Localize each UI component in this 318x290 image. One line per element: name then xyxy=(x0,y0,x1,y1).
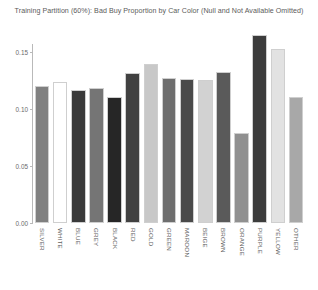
x-axis-label: GOLD xyxy=(147,228,154,246)
x-axis-label-slot: GOLD xyxy=(142,226,160,286)
x-axis-label: OTHER xyxy=(292,228,299,251)
y-axis-tick-label: 0.00 xyxy=(16,219,28,228)
x-axis-label-slot: PURPLE xyxy=(251,226,269,286)
bar[interactable] xyxy=(234,133,249,223)
x-axis-label-slot: BLUE xyxy=(69,226,87,286)
x-axis-label: MAROON xyxy=(184,228,191,257)
bar[interactable] xyxy=(89,88,104,223)
bar-slot xyxy=(89,30,104,223)
bar-slot xyxy=(35,30,50,223)
bar[interactable] xyxy=(180,79,195,223)
y-axis-tick-label: 0.15 xyxy=(16,48,28,57)
x-axis-label: BLUE xyxy=(75,228,82,245)
x-axis-label-slot: BLACK xyxy=(106,226,124,286)
x-axis-label-slot: OTHER xyxy=(287,226,305,286)
x-axis-label-slot: YELLOW xyxy=(269,226,287,286)
bar[interactable] xyxy=(271,49,286,223)
bar[interactable] xyxy=(162,78,177,223)
y-axis-tick-label: 0.05 xyxy=(16,162,28,171)
bar[interactable] xyxy=(53,82,68,223)
bar-slot xyxy=(144,30,159,223)
bar-chart: Training Partition (60%): Bad Buy Propor… xyxy=(0,0,318,290)
bar[interactable] xyxy=(198,80,213,223)
bar[interactable] xyxy=(125,73,140,223)
bar-slot xyxy=(271,30,286,223)
bar-slot xyxy=(216,30,231,223)
bar[interactable] xyxy=(216,72,231,223)
bar-slot xyxy=(198,30,213,223)
x-axis-label: BEIGE xyxy=(202,228,209,248)
x-axis-label-slot: GREEN xyxy=(160,226,178,286)
bar-slot xyxy=(234,30,249,223)
x-axis-label: WHITE xyxy=(57,228,64,249)
x-axis-label-slot: BEIGE xyxy=(196,226,214,286)
x-axis-label-slot: BROWN xyxy=(214,226,232,286)
bar-series xyxy=(33,30,305,223)
x-axis-label: SILVER xyxy=(39,228,46,251)
bar[interactable] xyxy=(144,64,159,223)
bar-slot xyxy=(180,30,195,223)
bar[interactable] xyxy=(252,35,267,223)
x-axis-label-slot: RED xyxy=(124,226,142,286)
bar-slot xyxy=(107,30,122,223)
bar[interactable] xyxy=(289,97,304,223)
bar-slot xyxy=(53,30,68,223)
bar-slot xyxy=(125,30,140,223)
x-axis-labels: SILVERWHITEBLUEGREYBLACKREDGOLDGREENMARO… xyxy=(33,226,305,286)
x-axis-label: ORANGE xyxy=(238,228,245,256)
plot-area: 0.000.050.100.15 xyxy=(33,30,305,223)
bar[interactable] xyxy=(71,90,86,223)
bar[interactable] xyxy=(35,86,50,223)
x-axis-label: PURPLE xyxy=(256,228,263,254)
x-axis-label-slot: SILVER xyxy=(33,226,51,286)
bar-slot xyxy=(289,30,304,223)
bar-slot xyxy=(162,30,177,223)
bar-slot xyxy=(71,30,86,223)
chart-title: Training Partition (60%): Bad Buy Propor… xyxy=(0,7,318,15)
y-axis-tick-label: 0.10 xyxy=(16,105,28,114)
x-axis-label: GREY xyxy=(93,228,100,246)
x-axis-label: YELLOW xyxy=(274,228,281,255)
x-axis-label: BROWN xyxy=(220,228,227,253)
bar-slot xyxy=(252,30,267,223)
x-axis-label-slot: MAROON xyxy=(178,226,196,286)
x-axis-label: RED xyxy=(129,228,136,242)
x-axis-label-slot: ORANGE xyxy=(232,226,250,286)
x-axis-label: GREEN xyxy=(165,228,172,251)
x-axis-label-slot: GREY xyxy=(87,226,105,286)
bar[interactable] xyxy=(107,97,122,223)
x-axis-label: BLACK xyxy=(111,228,118,249)
x-axis-label-slot: WHITE xyxy=(51,226,69,286)
